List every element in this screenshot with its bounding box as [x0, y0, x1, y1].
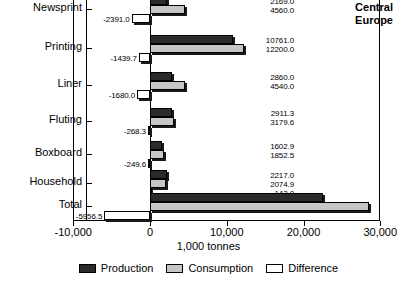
bar-consumption-total	[150, 202, 369, 211]
x-axis-tick-label: 10,000	[192, 226, 262, 239]
category-label-liner: Liner	[58, 77, 82, 89]
value-label-consumption-printing: 12200.0	[248, 45, 294, 54]
legend-swatch-difference-icon	[266, 264, 283, 273]
value-label-difference-boxboard: -249.6	[106, 160, 146, 169]
bar-consumption-printing	[150, 44, 244, 53]
chart-legend: Production Consumption Difference	[0, 262, 417, 274]
plot-area	[73, 0, 380, 221]
category-tick	[86, 206, 92, 207]
legend-label-consumption: Consumption	[188, 262, 253, 274]
x-axis-tick-label: 30,000	[345, 226, 415, 239]
bar-production-household	[150, 170, 167, 179]
category-label-newsprint: Newsprint	[33, 1, 82, 13]
legend-swatch-consumption-icon	[166, 264, 183, 273]
value-label-production-household: 2217.0	[248, 171, 294, 180]
bar-consumption-household	[150, 179, 166, 188]
legend-item-consumption: Consumption	[166, 262, 253, 274]
category-label-fluting: Fluting	[49, 113, 82, 125]
value-label-production-boxboard: 1602.9	[248, 142, 294, 151]
bar-production-boxboard	[150, 141, 162, 150]
category-tick	[86, 9, 92, 10]
category-axis-line	[86, 0, 87, 221]
value-label-consumption-fluting: 3179.6	[248, 118, 294, 127]
bar-difference-fluting	[148, 126, 150, 135]
bar-consumption-boxboard	[150, 150, 164, 159]
value-label-difference-printing: -1439.7	[97, 54, 137, 63]
legend-item-production: Production	[79, 262, 154, 274]
value-label-consumption-newsprint: 4560.0	[248, 6, 294, 15]
x-axis-tick-label: -10,000	[38, 226, 108, 239]
bar-difference-liner	[137, 90, 150, 99]
value-label-difference-newsprint: -2391.0	[90, 15, 130, 24]
chart-title: Central Europe	[355, 1, 393, 27]
legend-label-difference: Difference	[288, 262, 338, 274]
category-tick	[86, 85, 92, 86]
value-label-production-liner: 2860.0	[248, 73, 294, 82]
value-label-difference-fluting: -268.3	[106, 127, 146, 136]
bar-difference-boxboard	[148, 159, 150, 168]
value-label-consumption-household: 2074.9	[248, 180, 294, 189]
bar-shadow	[150, 161, 152, 170]
value-label-difference-liner: -1680.0	[95, 91, 135, 100]
bar-consumption-fluting	[150, 117, 174, 126]
value-label-production-fluting: 2911.3	[248, 109, 294, 118]
bar-chart: Central Europe NewsprintPrintingLinerFlu…	[0, 0, 417, 284]
legend-label-production: Production	[101, 262, 154, 274]
category-label-household: Household	[29, 175, 82, 187]
category-tick	[86, 121, 92, 122]
category-tick	[86, 48, 92, 49]
bar-production-liner	[150, 72, 172, 81]
value-label-difference-total: -5956.5	[62, 212, 102, 221]
category-label-total: Total	[59, 198, 82, 210]
bar-production-fluting	[150, 108, 172, 117]
bar-consumption-liner	[150, 81, 185, 90]
x-axis-tick-label: 0	[115, 226, 185, 239]
bar-difference-newsprint	[132, 14, 150, 23]
bar-difference-printing	[139, 53, 150, 62]
bar-shadow	[150, 128, 152, 137]
bar-difference-total	[104, 211, 150, 220]
value-label-production-printing: 10761.0	[248, 36, 294, 45]
category-label-printing: Printing	[45, 40, 82, 52]
category-tick	[86, 154, 92, 155]
category-label-boxboard: Boxboard	[35, 146, 82, 158]
bar-production-total	[150, 193, 323, 202]
value-label-consumption-liner: 4540.0	[248, 82, 294, 91]
x-axis-title: 1,000 tonnes	[0, 240, 417, 253]
legend-swatch-production-icon	[79, 264, 96, 273]
x-axis-tick-label: 20,000	[269, 226, 339, 239]
bar-consumption-newsprint	[150, 5, 185, 14]
value-label-consumption-boxboard: 1852.5	[248, 151, 294, 160]
bar-production-printing	[150, 35, 233, 44]
legend-item-difference: Difference	[266, 262, 338, 274]
category-tick	[86, 183, 92, 184]
